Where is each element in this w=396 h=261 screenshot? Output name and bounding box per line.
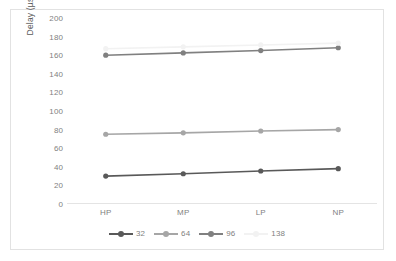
legend-label: 96 (226, 229, 235, 238)
legend-label: 32 (136, 229, 145, 238)
y-tick-label: 100 (35, 107, 63, 116)
y-tick-label: 80 (35, 125, 63, 134)
data-point (258, 42, 263, 47)
chart-container: Delay (µs) 020406080100120140160180200 H… (10, 9, 384, 250)
legend-label: 64 (181, 229, 190, 238)
y-tick-label: 200 (35, 14, 63, 23)
y-tick-label: 120 (35, 88, 63, 97)
data-point (258, 168, 263, 173)
x-tick-label: LP (256, 208, 266, 217)
legend-label: 138 (271, 229, 285, 238)
series-layer (67, 18, 377, 204)
data-point (258, 48, 263, 53)
x-tick-label: HP (100, 208, 112, 217)
series-32 (103, 166, 341, 179)
x-tick-label: NP (332, 208, 344, 217)
data-point (336, 41, 341, 46)
data-point (181, 171, 186, 176)
plot-area (67, 18, 377, 204)
data-point (103, 132, 108, 137)
chart-legend: 326496138 (11, 229, 383, 238)
series-line (106, 130, 339, 135)
data-point (181, 130, 186, 135)
data-point (103, 174, 108, 179)
y-tick-label: 60 (35, 144, 63, 153)
legend-item-138[interactable]: 138 (244, 229, 285, 238)
legend-item-32[interactable]: 32 (109, 229, 145, 238)
y-tick-label: 180 (35, 32, 63, 41)
legend-marker-icon (109, 229, 133, 238)
data-point (336, 166, 341, 171)
legend-marker-icon (244, 229, 268, 238)
series-64 (103, 127, 341, 137)
y-axis-tick-labels: 020406080100120140160180200 (33, 18, 63, 204)
data-point (336, 45, 341, 50)
data-point (181, 44, 186, 49)
legend-item-96[interactable]: 96 (199, 229, 235, 238)
series-line (106, 169, 339, 176)
legend-marker-icon (199, 229, 223, 238)
data-point (258, 128, 263, 133)
y-tick-label: 40 (35, 162, 63, 171)
y-tick-label: 160 (35, 51, 63, 60)
data-point (336, 127, 341, 132)
data-point (181, 50, 186, 55)
series-line (106, 48, 339, 55)
legend-marker-icon (154, 229, 178, 238)
series-line (106, 43, 339, 49)
legend-item-64[interactable]: 64 (154, 229, 190, 238)
series-96 (103, 45, 341, 58)
y-tick-label: 20 (35, 181, 63, 190)
data-point (103, 46, 108, 51)
x-tick-label: MP (177, 208, 189, 217)
data-point (103, 53, 108, 58)
x-axis-tick-labels: HPMPLPNP (67, 208, 377, 222)
y-tick-label: 0 (35, 200, 63, 209)
y-tick-label: 140 (35, 69, 63, 78)
plot-wrapper: Delay (µs) 020406080100120140160180200 H… (11, 10, 383, 249)
